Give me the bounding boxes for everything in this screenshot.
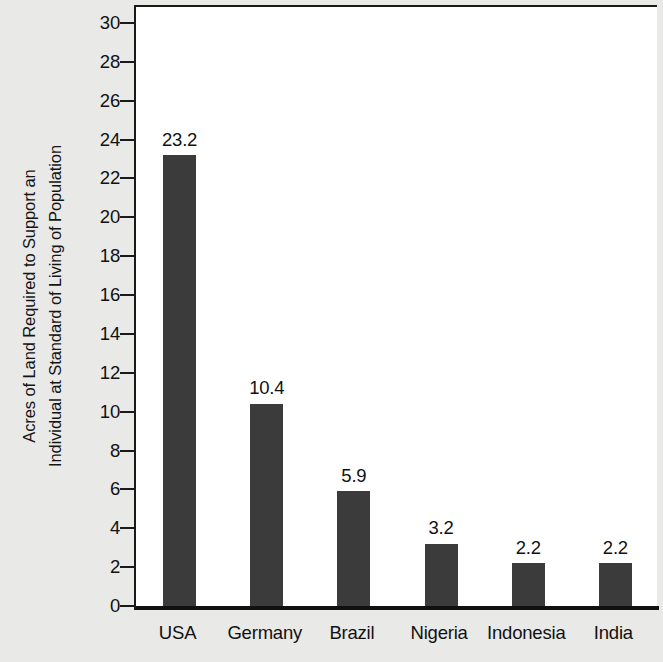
y-axis-tick-mark bbox=[120, 372, 135, 374]
y-axis-tick-label: 4 bbox=[74, 519, 120, 538]
y-axis-tick-label: 16 bbox=[74, 286, 120, 305]
y-axis-tick-label: 24 bbox=[74, 131, 120, 150]
y-axis-tick-label: 26 bbox=[74, 92, 120, 111]
y-axis-tick-label: 20 bbox=[74, 208, 120, 227]
y-axis-title-line-2: Individual at Standard of Living of Popu… bbox=[42, 145, 68, 467]
y-axis-tick-label: 10 bbox=[74, 403, 120, 422]
x-axis-category-label: India bbox=[553, 622, 663, 644]
y-axis-title-text: Acres of Land Required to Support an Ind… bbox=[16, 145, 68, 467]
bar bbox=[250, 404, 283, 606]
y-axis-tick-mark bbox=[120, 22, 135, 24]
y-axis-tick-label: 28 bbox=[74, 53, 120, 72]
bar-value-label: 10.4 bbox=[227, 379, 307, 398]
y-axis-title: Acres of Land Required to Support an Ind… bbox=[14, 0, 70, 612]
bar bbox=[163, 155, 196, 606]
y-axis-tick-label: 22 bbox=[74, 169, 120, 188]
plot-inner: 23.210.45.93.22.22.2 bbox=[136, 7, 657, 610]
y-axis-tick-mark bbox=[120, 216, 135, 218]
plot-area: 23.210.45.93.22.22.2 bbox=[134, 5, 657, 610]
bar bbox=[337, 491, 370, 606]
bar-value-label: 5.9 bbox=[314, 467, 394, 486]
bar bbox=[512, 563, 545, 606]
bar-value-label: 2.2 bbox=[575, 539, 655, 558]
y-axis-tick-mark bbox=[120, 411, 135, 413]
y-axis-tick-mark bbox=[120, 566, 135, 568]
y-axis-tick-label: 12 bbox=[74, 364, 120, 383]
y-axis-tick-mark bbox=[120, 527, 135, 529]
bar-value-label: 23.2 bbox=[140, 131, 220, 150]
y-axis-tick-mark bbox=[120, 139, 135, 141]
y-axis-tick-mark bbox=[120, 333, 135, 335]
y-axis-tick-mark bbox=[120, 450, 135, 452]
y-axis-tick-label: 8 bbox=[74, 442, 120, 461]
y-axis-tick-mark bbox=[120, 255, 135, 257]
y-axis-tick-labels: 024681012141618202224262830 bbox=[74, 0, 120, 662]
y-axis-tick-label: 0 bbox=[74, 597, 120, 616]
bar-value-label: 2.2 bbox=[488, 539, 568, 558]
y-axis-tick-mark bbox=[120, 294, 135, 296]
y-axis-tick-label: 30 bbox=[74, 14, 120, 33]
bar-value-label: 3.2 bbox=[401, 519, 481, 538]
y-axis-tick-label: 6 bbox=[74, 480, 120, 499]
bar bbox=[599, 563, 632, 606]
y-axis-tick-mark bbox=[120, 100, 135, 102]
bar bbox=[425, 544, 458, 606]
y-axis-tick-label: 2 bbox=[74, 558, 120, 577]
y-axis-tick-label: 14 bbox=[74, 325, 120, 344]
x-axis-line bbox=[136, 606, 659, 610]
y-axis-tick-mark bbox=[120, 177, 135, 179]
y-axis-tick-mark bbox=[120, 488, 135, 490]
y-axis-title-line-1: Acres of Land Required to Support an bbox=[16, 145, 42, 467]
x-axis-category-labels: USAGermanyBrazilNigeriaIndonesiaIndia bbox=[134, 622, 657, 656]
y-axis-tick-mark bbox=[120, 61, 135, 63]
y-axis-tick-label: 18 bbox=[74, 247, 120, 266]
y-axis-tick-mark bbox=[120, 605, 135, 607]
